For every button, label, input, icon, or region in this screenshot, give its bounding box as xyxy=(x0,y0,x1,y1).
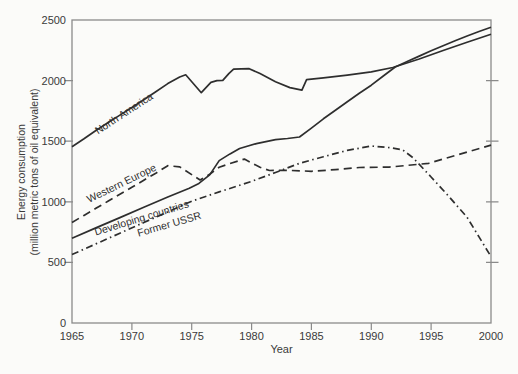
x-tick-label-1970: 1970 xyxy=(112,330,152,342)
y-tick-label-1500: 1500 xyxy=(0,135,66,147)
series-line-developing-countries xyxy=(72,27,491,238)
axis-ticks xyxy=(65,81,499,330)
y-tick-label-1000: 1000 xyxy=(0,196,66,208)
x-tick-label-1975: 1975 xyxy=(172,330,212,342)
y-axis-title-line2: (million metric tons of oil equivalent) xyxy=(28,0,41,345)
y-tick-label-2000: 2000 xyxy=(0,75,66,87)
y-tick-label-500: 500 xyxy=(0,256,66,268)
y-axis-title: Energy consumption (million metric tons … xyxy=(15,0,41,345)
y-tick-label-2500: 2500 xyxy=(0,14,66,26)
y-axis-title-line1: Energy consumption xyxy=(15,0,28,345)
energy-consumption-line-chart: Energy consumption (million metric tons … xyxy=(0,0,518,374)
x-tick-label-2000: 2000 xyxy=(471,330,511,342)
x-tick-label-1985: 1985 xyxy=(291,330,331,342)
x-tick-label-1990: 1990 xyxy=(351,330,391,342)
x-tick-label-1965: 1965 xyxy=(52,330,92,342)
x-tick-label-1995: 1995 xyxy=(411,330,451,342)
x-axis-title: Year xyxy=(72,343,491,355)
y-tick-label-0: 0 xyxy=(0,317,66,329)
plot-svg xyxy=(0,0,518,374)
series-line-north-america xyxy=(72,34,491,146)
x-tick-label-1980: 1980 xyxy=(232,330,272,342)
